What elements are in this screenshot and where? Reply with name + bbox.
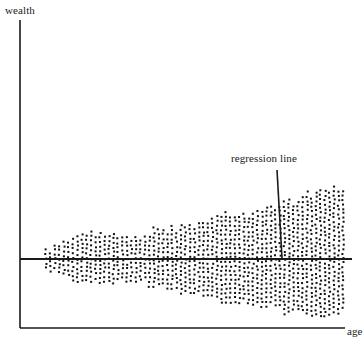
scatter-point-cloud bbox=[44, 186, 344, 318]
plot-canvas bbox=[0, 0, 364, 345]
x-axis-label: age bbox=[347, 325, 363, 337]
annotation-leader-line bbox=[277, 170, 282, 258]
y-axis-label: wealth bbox=[5, 4, 35, 16]
scatter-plot-figure: wealth age regression line bbox=[0, 0, 364, 345]
regression-line-annotation-label: regression line bbox=[231, 152, 297, 164]
